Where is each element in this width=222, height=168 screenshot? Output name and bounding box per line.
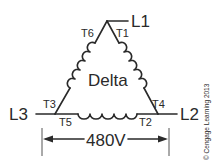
t5-label: T5 [59,116,72,128]
t4-label: T4 [152,98,165,110]
voltage-label: 480V [86,131,126,150]
t3-label: T3 [43,98,56,110]
t2-label: T2 [139,116,152,128]
l2-label: L2 [180,105,199,124]
l3-label: L3 [9,105,28,124]
right-winding [107,21,158,114]
l1-label: L1 [131,12,150,31]
delta-connection-diagram: L1 L3 L2 T6 T1 T3 T4 T5 T2 Delta 480V © … [0,0,222,168]
copyright-text: © Cengage Learning 2013 [203,83,211,160]
arrow-left-icon [43,136,53,143]
t1-label: T1 [116,27,129,39]
arrow-right-icon [158,136,168,143]
delta-label: Delta [88,71,128,90]
t6-label: T6 [81,27,94,39]
